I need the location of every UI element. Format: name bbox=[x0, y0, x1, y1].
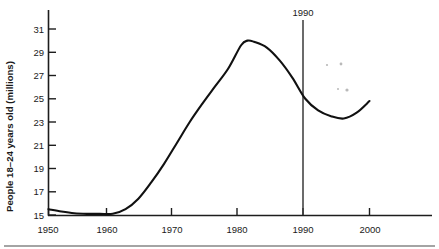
x-tick-label: 1990 bbox=[292, 224, 313, 235]
x-tick-label: 1970 bbox=[161, 224, 182, 235]
y-tick-label: 23 bbox=[33, 117, 44, 128]
reference-line-label: 1990 bbox=[292, 7, 313, 18]
y-tick-label: 31 bbox=[33, 24, 44, 35]
scan-speckles bbox=[326, 63, 349, 92]
x-tick-label: 1960 bbox=[96, 224, 117, 235]
y-tick-label: 17 bbox=[33, 186, 44, 197]
y-axis-title: People 18–24 years old (millions) bbox=[4, 61, 15, 212]
x-tick-label: 2000 bbox=[359, 224, 380, 235]
line-chart-svg: 31 29 27 25 23 21 19 17 15 People 18–24 … bbox=[0, 0, 439, 249]
x-tick-label: 1950 bbox=[37, 224, 58, 235]
y-tick-label: 21 bbox=[33, 140, 44, 151]
y-tick-label: 27 bbox=[33, 70, 44, 81]
x-tick-label: 1980 bbox=[226, 224, 247, 235]
y-tick-label: 15 bbox=[33, 210, 44, 221]
x-axis-tick-labels: 1950 1960 1970 1980 1990 2000 bbox=[37, 224, 380, 235]
y-axis-tick-labels: 31 29 27 25 23 21 19 17 15 bbox=[33, 24, 44, 221]
data-series-line bbox=[49, 40, 370, 214]
y-tick-label: 25 bbox=[33, 93, 44, 104]
chart-figure: 31 29 27 25 23 21 19 17 15 People 18–24 … bbox=[0, 0, 439, 249]
y-tick-label: 19 bbox=[33, 163, 44, 174]
y-tick-label: 29 bbox=[33, 47, 44, 58]
